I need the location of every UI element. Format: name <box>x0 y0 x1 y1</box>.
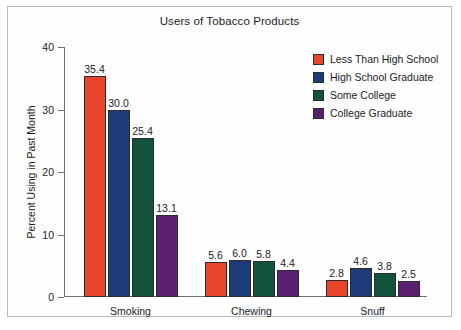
legend-item[interactable]: Some College <box>313 87 438 103</box>
y-axis-tick: 20 <box>58 172 64 173</box>
bar-value-label: 25.4 <box>132 125 152 137</box>
y-axis-line <box>64 47 65 297</box>
legend-item[interactable]: Less Than High School <box>313 51 438 67</box>
bar-value-label: 2.8 <box>329 267 344 279</box>
bar[interactable]: 6.0 <box>229 260 251 298</box>
bar-value-label: 13.1 <box>156 202 176 214</box>
y-axis-tick: 30 <box>58 110 64 111</box>
bar[interactable]: 25.4 <box>132 138 154 297</box>
bar-value-label: 4.4 <box>280 257 295 269</box>
bar-value-label: 5.6 <box>208 249 223 261</box>
legend-item[interactable]: High School Graduate <box>313 69 438 85</box>
y-axis-tick-label: 40 <box>42 41 54 53</box>
bar-value-label: 30.0 <box>108 97 128 109</box>
bar[interactable]: 4.4 <box>277 270 299 298</box>
bar[interactable]: 3.8 <box>374 273 396 297</box>
x-axis-category-label: Smoking <box>110 305 151 317</box>
bar-value-label: 4.6 <box>353 255 368 267</box>
bar[interactable]: 5.6 <box>205 262 227 297</box>
bar-value-label: 2.5 <box>401 268 416 280</box>
y-axis-tick: 40 <box>58 47 64 48</box>
legend-item-label: Some College <box>330 89 396 101</box>
bar-value-label: 35.4 <box>84 63 104 75</box>
bar-value-label: 6.0 <box>232 247 247 259</box>
y-axis-tick-label: 20 <box>42 166 54 178</box>
chart-title: Users of Tobacco Products <box>8 15 451 27</box>
legend-swatch-icon <box>313 54 324 65</box>
legend-item-label: College Graduate <box>330 107 412 119</box>
bar-value-label: 3.8 <box>377 260 392 272</box>
chart-figure-frame: Users of Tobacco Products Percent Using … <box>7 6 452 317</box>
bar-group-smoking: 35.430.025.413.1Smoking <box>84 47 178 297</box>
legend-swatch-icon <box>313 90 324 101</box>
bar[interactable]: 2.5 <box>398 281 420 297</box>
bar[interactable]: 30.0 <box>108 110 130 298</box>
bar[interactable]: 13.1 <box>156 215 178 297</box>
bar[interactable]: 5.8 <box>253 261 275 297</box>
y-axis-tick-label: 0 <box>48 291 54 303</box>
bar-group-chewing: 5.66.05.84.4Chewing <box>205 47 299 297</box>
y-axis-tick-label: 10 <box>42 229 54 241</box>
bar[interactable]: 2.8 <box>326 280 348 298</box>
chart-legend: Less Than High SchoolHigh School Graduat… <box>313 51 438 123</box>
x-axis-category-label: Chewing <box>231 305 272 317</box>
y-axis-tick: 10 <box>58 235 64 236</box>
bar[interactable]: 35.4 <box>84 76 106 297</box>
y-axis-title: Percent Using in Past Month <box>24 47 38 297</box>
legend-item-label: Less Than High School <box>330 53 438 65</box>
bar[interactable]: 4.6 <box>350 268 372 297</box>
legend-item[interactable]: College Graduate <box>313 105 438 121</box>
y-axis-tick-label: 30 <box>42 104 54 116</box>
legend-swatch-icon <box>313 108 324 119</box>
legend-item-label: High School Graduate <box>330 71 433 83</box>
y-axis-tick: 0 <box>58 297 64 298</box>
legend-swatch-icon <box>313 72 324 83</box>
x-axis-category-label: Snuff <box>360 305 384 317</box>
y-axis-title-label: Percent Using in Past Month <box>25 105 37 238</box>
bar-value-label: 5.8 <box>256 248 271 260</box>
